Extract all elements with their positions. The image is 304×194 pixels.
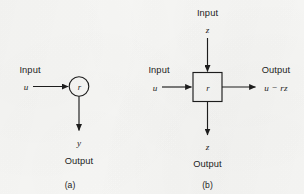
panel-b-output-sum-signal-label: u − rz — [264, 84, 288, 93]
panel-b-input-z-role-label: Input — [197, 9, 218, 18]
panel-b-output-z-role-label: Output — [193, 160, 222, 169]
panel-b-input-z-signal-label: z — [206, 26, 210, 35]
panel-b-output-z-signal-label: z — [206, 143, 210, 152]
figure-container: Input u r y Output (a) Input z Input u r… — [0, 0, 304, 194]
panel-b-input-u-signal-label: u — [153, 84, 158, 93]
diagram-vector-layer — [0, 0, 304, 194]
panel-a-input-u-signal-label: u — [24, 83, 29, 92]
panel-b-caption: (b) — [202, 181, 213, 190]
panel-a-input-u-role-label: Input — [19, 66, 40, 75]
panel-a-output-y-signal-label: y — [77, 139, 81, 148]
panel-b-output-sum-role-label: Output — [262, 66, 291, 75]
panel-a-output-y-role-label: Output — [65, 157, 94, 166]
panel-a-caption: (a) — [65, 181, 76, 190]
panel-a-node-label: r — [78, 83, 81, 92]
panel-b-node-label: r — [206, 84, 209, 93]
panel-b-input-u-role-label: Input — [148, 66, 169, 75]
